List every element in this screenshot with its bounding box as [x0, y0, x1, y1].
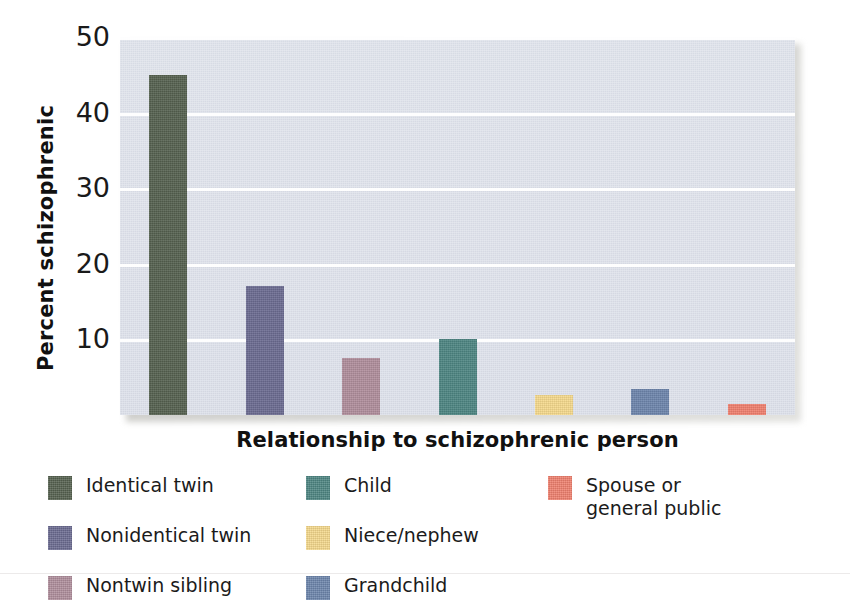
gridline-20	[120, 264, 795, 267]
bar-chart-figure: Percent schizophrenic 1020304050 Relatio…	[0, 0, 850, 616]
legend-column-1: Identical twinNonidentical twinNontwin s…	[48, 474, 298, 616]
y-axis-tick-40: 40	[54, 99, 110, 126]
legend-swatch-spouse-general-public	[548, 476, 572, 500]
legend-swatch-child	[306, 476, 330, 500]
legend-item: Grandchild	[306, 574, 546, 607]
gridline-30	[120, 188, 795, 191]
bar-spouse-or-general-public	[728, 404, 766, 415]
legend-swatch-identical-twin	[48, 476, 72, 500]
bottom-divider	[0, 573, 850, 574]
y-axis-tick-50: 50	[54, 23, 110, 50]
y-axis-tick-20: 20	[54, 250, 110, 277]
legend-swatch-nontwin-sibling	[48, 576, 72, 600]
y-axis-tick-10: 10	[54, 325, 110, 352]
legend-swatch-grandchild	[306, 576, 330, 600]
legend-label: Grandchild	[344, 574, 447, 597]
bar-nonidentical-twin	[246, 286, 284, 415]
y-axis-tick-30: 30	[54, 174, 110, 201]
legend-label: Nonidentical twin	[86, 524, 251, 547]
legend-label: Niece/nephew	[344, 524, 479, 547]
x-axis-title: Relationship to schizophrenic person	[120, 428, 795, 452]
legend-column-3: Spouse or general public	[548, 474, 828, 524]
bar-grandchild	[631, 389, 669, 415]
legend-swatch-nonidentical-twin	[48, 526, 72, 550]
chart-legend: Identical twinNonidentical twinNontwin s…	[48, 474, 828, 604]
legend-item: Spouse or general public	[548, 474, 828, 507]
bar-niece-nephew	[535, 395, 573, 415]
plot-area	[120, 37, 795, 415]
legend-label: Spouse or general public	[586, 474, 721, 520]
legend-column-2: ChildNiece/nephewGrandchild	[306, 474, 546, 616]
legend-label: Identical twin	[86, 474, 214, 497]
legend-swatch-niece-nephew	[306, 526, 330, 550]
legend-item: Identical twin	[48, 474, 298, 507]
gridline-50	[120, 37, 795, 40]
legend-item: Child	[306, 474, 546, 507]
legend-label: Nontwin sibling	[86, 574, 232, 597]
legend-label: Child	[344, 474, 392, 497]
bar-child	[439, 339, 477, 415]
legend-item: Nontwin sibling	[48, 574, 298, 607]
legend-item: Niece/nephew	[306, 524, 546, 557]
bar-nontwin-sibling	[342, 358, 380, 415]
bar-identical-twin	[149, 75, 187, 415]
legend-item: Nonidentical twin	[48, 524, 298, 557]
gridline-40	[120, 113, 795, 116]
